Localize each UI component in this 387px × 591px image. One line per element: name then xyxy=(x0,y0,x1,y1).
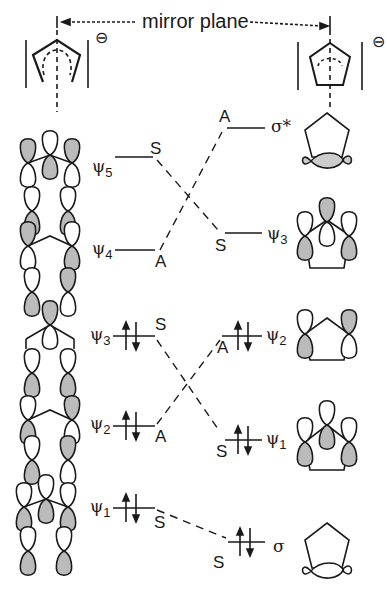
label-right-sigma: σ xyxy=(273,538,285,555)
right-top-structure xyxy=(298,30,362,108)
right-orbital-sigma xyxy=(303,523,352,578)
label-left-psi2: ψ2 xyxy=(90,415,111,436)
left-levels xyxy=(113,157,155,508)
electron-pairs xyxy=(123,322,253,556)
right-orbital-sigma-star xyxy=(303,113,352,168)
sym-right-sigma: S xyxy=(213,554,224,571)
sym-right-psi1: S xyxy=(216,443,227,460)
sym-left-psi5: S xyxy=(150,140,161,157)
sym-left-psi1: S xyxy=(154,514,165,531)
label-right-sigma-star: σ* xyxy=(271,118,291,135)
correlation-lines xyxy=(157,132,226,538)
orbital-correlation-diagram: mirror plane ⊖ ⊖ ψ5 S ψ4 A ψ3 S ψ2 A ψ1 … xyxy=(0,0,387,591)
mirror-plane-label: mirror plane xyxy=(142,10,249,33)
sym-right-psi2: A xyxy=(217,339,228,356)
left-orbital-psi1 xyxy=(16,475,75,576)
label-right-psi2: ψ2 xyxy=(266,326,287,347)
label-left-psi4: ψ4 xyxy=(92,240,113,261)
right-orbital-psi3 xyxy=(297,198,356,268)
right-levels xyxy=(222,128,265,542)
sym-left-psi4: A xyxy=(155,253,166,270)
right-orbital-psi1 xyxy=(297,401,356,470)
sym-left-psi3: S xyxy=(155,316,166,333)
label-left-psi3: ψ3 xyxy=(90,326,111,347)
right-orbital-psi2 xyxy=(297,310,356,360)
diagram-graphics xyxy=(0,0,387,591)
sym-left-psi2: A xyxy=(155,428,166,445)
label-left-psi1: ψ1 xyxy=(90,498,111,519)
charge-left: ⊖ xyxy=(95,30,108,46)
left-orbital-psi5 xyxy=(20,131,79,236)
label-right-psi3: ψ3 xyxy=(267,225,288,246)
charge-right: ⊖ xyxy=(372,34,385,50)
label-left-psi5: ψ5 xyxy=(92,158,113,179)
left-orbital-psi2 xyxy=(20,396,79,485)
left-top-structure xyxy=(26,30,88,112)
label-right-psi1: ψ1 xyxy=(266,430,287,451)
sym-right-sigma-star: A xyxy=(219,108,230,125)
sym-right-psi3: S xyxy=(215,237,226,254)
